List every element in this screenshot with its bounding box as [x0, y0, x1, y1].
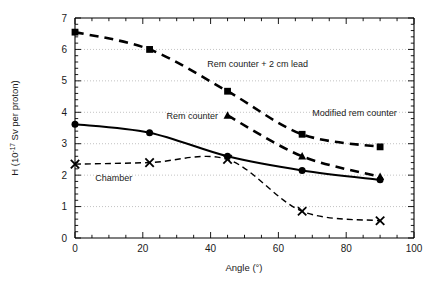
- y-tick-label: 7: [61, 13, 67, 24]
- data-point-marker: [146, 46, 153, 53]
- x-tick-label: 100: [406, 243, 423, 254]
- y-tick-label: 4: [61, 107, 67, 118]
- series-label-rem-counter: Rem counter: [167, 111, 219, 121]
- square-marker-icon: [299, 131, 306, 138]
- data-point-marker: [72, 121, 79, 128]
- y-tick-label: 2: [61, 170, 67, 181]
- data-point-marker: [146, 129, 153, 136]
- x-tick-label: 0: [72, 243, 78, 254]
- x-tick-label: 20: [137, 243, 149, 254]
- series-label-chamber: Chamber: [95, 173, 132, 183]
- y-axis-title: H (10-17 Sv per proton): [9, 80, 21, 175]
- chart-figure: 020406080100 01234567 Rem counter + 2 cm…: [0, 0, 438, 288]
- square-marker-icon: [377, 143, 384, 150]
- circle-marker-icon: [377, 176, 384, 183]
- x-tick-label: 80: [341, 243, 353, 254]
- data-point-marker: [72, 29, 79, 36]
- y-tick-label: 1: [61, 201, 67, 212]
- data-point-marker: [299, 167, 306, 174]
- square-marker-icon: [72, 29, 79, 36]
- square-marker-icon: [146, 46, 153, 53]
- data-point-marker: [224, 88, 231, 95]
- data-point-marker: [377, 176, 384, 183]
- data-point-marker: [377, 143, 384, 150]
- x-tick-label: 40: [205, 243, 217, 254]
- data-point-marker: [299, 131, 306, 138]
- y-tick-label: 0: [61, 233, 67, 244]
- x-axis-title: Angle (°): [225, 262, 262, 273]
- y-tick-label: 3: [61, 138, 67, 149]
- series-label-rem-counter-2-cm-lead: Rem counter + 2 cm lead: [207, 59, 308, 69]
- y-tick-label: 5: [61, 75, 67, 86]
- square-marker-icon: [224, 88, 231, 95]
- y-axis-title-exponent: -17: [9, 143, 16, 153]
- circle-marker-icon: [146, 129, 153, 136]
- svg-text:H (10-17 Sv per proton): H (10-17 Sv per proton): [9, 80, 21, 175]
- y-tick-label: 6: [61, 44, 67, 55]
- y-axis-title-prefix: H (10: [9, 153, 20, 176]
- circle-marker-icon: [299, 167, 306, 174]
- circle-marker-icon: [72, 121, 79, 128]
- angular-dose-response-chart: 020406080100 01234567 Rem counter + 2 cm…: [0, 0, 438, 288]
- y-axis-title-suffix: Sv per proton): [9, 80, 20, 143]
- x-tick-label: 60: [273, 243, 285, 254]
- series-label-modified-rem-counter: Modified rem counter: [312, 108, 397, 118]
